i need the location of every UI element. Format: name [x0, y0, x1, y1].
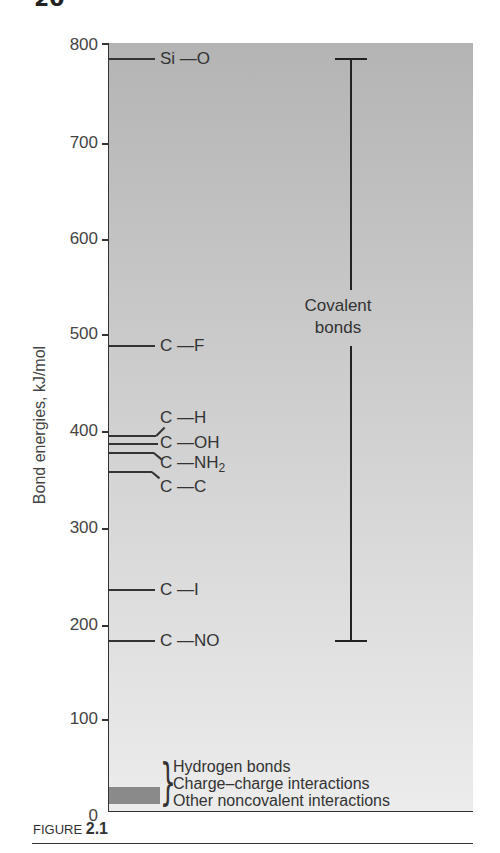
figure-caption-prefix: FIGURE — [33, 822, 82, 837]
covalent-range-upper-line — [350, 58, 352, 290]
bond-line-c-oh — [108, 443, 158, 445]
bond-label-c-no: C —NO — [160, 631, 220, 651]
bond-line-c-f — [108, 345, 155, 347]
y-tick-200 — [102, 625, 108, 627]
noncovalent-bar — [109, 787, 160, 804]
noncovalent-label-charge: Charge–charge interactions — [173, 775, 390, 792]
figure-caption: FIGURE 2.1 — [33, 820, 108, 838]
covalent-label-line2: bonds — [304, 317, 371, 339]
y-axis-title: Bond energies, kJ/mol — [31, 346, 49, 504]
y-tick-label-600: 600 — [70, 229, 98, 249]
y-tick-600 — [102, 239, 108, 241]
covalent-label-line1: Covalent — [304, 295, 371, 317]
y-tick-label-400: 400 — [70, 421, 98, 441]
y-tick-700 — [102, 143, 108, 145]
bond-label-c-nh2-sub: 2 — [219, 461, 226, 475]
bond-line-c-nh2 — [108, 452, 154, 454]
y-tick-400 — [102, 431, 108, 433]
bond-label-si-o: Si —O — [160, 49, 210, 69]
bond-label-c-oh: C —OH — [160, 433, 220, 453]
noncovalent-label-other: Other noncovalent interactions — [173, 792, 390, 809]
y-tick-300 — [102, 528, 108, 530]
bond-label-c-nh2-main: C —NH — [160, 453, 219, 472]
noncovalent-label-hydrogen: Hydrogen bonds — [173, 758, 390, 775]
caption-rule — [32, 843, 473, 844]
page-number: 20 — [34, 0, 65, 11]
y-tick-800 — [102, 43, 108, 45]
bond-label-c-f: C —F — [160, 336, 204, 356]
bond-line-c-no — [108, 640, 155, 642]
y-tick-label-300: 300 — [70, 518, 98, 538]
y-tick-label-100: 100 — [70, 709, 98, 729]
y-tick-label-700: 700 — [70, 133, 98, 153]
bond-label-c-h: C —H — [160, 408, 206, 428]
bond-line-si-o — [108, 58, 155, 60]
bond-label-c-i: C —I — [160, 580, 199, 600]
covalent-range-lower-line — [350, 346, 352, 640]
figure-caption-number: 2.1 — [86, 820, 108, 837]
covalent-range-label: Covalent bonds — [304, 295, 371, 339]
bond-line-c-h — [108, 435, 156, 437]
noncovalent-labels: Hydrogen bonds Charge–charge interaction… — [173, 758, 390, 809]
bond-label-c-nh2: C —NH2 — [160, 453, 225, 475]
y-tick-500 — [102, 334, 108, 336]
bond-line-c-c — [108, 471, 152, 473]
y-tick-label-500: 500 — [70, 324, 98, 344]
y-tick-label-200: 200 — [70, 615, 98, 635]
bond-label-c-c: C —C — [160, 477, 206, 497]
covalent-range-bottom-cap — [335, 640, 367, 642]
y-tick-label-800: 800 — [70, 35, 98, 55]
y-tick-100 — [102, 719, 108, 721]
bond-line-c-i — [108, 589, 155, 591]
